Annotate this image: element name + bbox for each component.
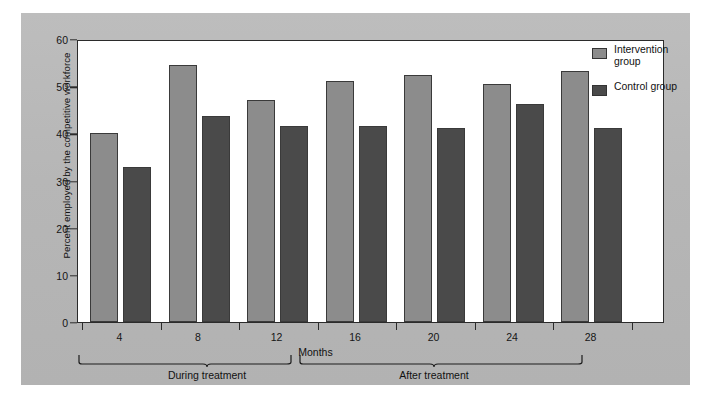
x-axis-tick-mark bbox=[553, 323, 554, 330]
legend-swatch-icon bbox=[592, 85, 607, 96]
y-axis-tick-mark bbox=[70, 39, 77, 40]
y-axis-tick-label: 10 bbox=[56, 270, 68, 282]
bar-intervention-month-12 bbox=[247, 100, 275, 322]
group-label-during-treatment: During treatment bbox=[168, 369, 246, 381]
x-axis-tick-label: 4 bbox=[117, 331, 123, 343]
x-axis-tick-mark bbox=[475, 323, 476, 330]
bar-control-month-8 bbox=[202, 116, 230, 322]
x-axis-tick-label: 16 bbox=[349, 331, 361, 343]
x-axis-tick-label: 24 bbox=[506, 331, 518, 343]
x-axis-tick-label: 12 bbox=[271, 331, 283, 343]
bar-intervention-month-4 bbox=[90, 133, 118, 322]
group-label-after-treatment: After treatment bbox=[399, 369, 468, 381]
bar-intervention-month-24 bbox=[483, 84, 511, 322]
bar-control-month-28 bbox=[594, 128, 622, 322]
x-axis-tick-mark bbox=[396, 323, 397, 330]
y-axis-tick-labels: 0102030405060 bbox=[30, 40, 68, 323]
bar-intervention-month-16 bbox=[326, 81, 354, 322]
legend-swatch-icon bbox=[592, 48, 607, 59]
bar-control-month-24 bbox=[516, 104, 544, 322]
x-axis-tick-mark bbox=[239, 323, 240, 330]
y-axis-tick-label: 50 bbox=[56, 81, 68, 93]
legend-item-control: Control group bbox=[592, 83, 692, 109]
x-axis-label-text: Months bbox=[298, 346, 332, 358]
figure-bar-chart: Percent employed by the competitive work… bbox=[0, 0, 705, 401]
legend: Intervention groupControl group bbox=[592, 46, 692, 120]
plot-area bbox=[77, 40, 664, 323]
x-axis-tick-mark bbox=[318, 323, 319, 330]
y-axis-tick-mark bbox=[70, 181, 77, 182]
y-axis-tick-label: 20 bbox=[56, 223, 68, 235]
bar-control-month-16 bbox=[359, 126, 387, 322]
bar-control-month-12 bbox=[280, 126, 308, 322]
legend-item-intervention: Intervention group bbox=[592, 46, 692, 72]
bar-control-month-20 bbox=[437, 128, 465, 322]
y-axis-tick-label: 0 bbox=[62, 317, 68, 329]
y-axis-tick-mark bbox=[70, 275, 77, 276]
bar-intervention-month-20 bbox=[404, 75, 432, 322]
x-axis-tick-label: 20 bbox=[428, 331, 440, 343]
legend-label: Control group bbox=[614, 81, 692, 93]
x-axis-tick-mark bbox=[82, 323, 83, 330]
x-axis-tick-label: 8 bbox=[195, 331, 201, 343]
y-axis-tick-mark bbox=[70, 86, 77, 87]
x-axis-tick-mark bbox=[161, 323, 162, 330]
x-axis-tick-label: 28 bbox=[585, 331, 597, 343]
y-axis-tick-label: 40 bbox=[56, 128, 68, 140]
y-axis-tick-mark bbox=[70, 228, 77, 229]
y-axis-tick-label: 60 bbox=[56, 34, 68, 46]
y-axis-tick-mark bbox=[70, 322, 77, 323]
bar-intervention-month-28 bbox=[561, 71, 589, 322]
bar-intervention-month-8 bbox=[169, 65, 197, 322]
y-axis-tick-mark bbox=[70, 134, 77, 135]
x-axis-tick-mark bbox=[632, 323, 633, 330]
x-axis-label: Months bbox=[0, 346, 705, 358]
bars-container bbox=[78, 41, 663, 322]
y-axis-tick-label: 30 bbox=[56, 176, 68, 188]
bar-control-month-4 bbox=[123, 167, 151, 322]
legend-label: Intervention group bbox=[614, 44, 692, 69]
